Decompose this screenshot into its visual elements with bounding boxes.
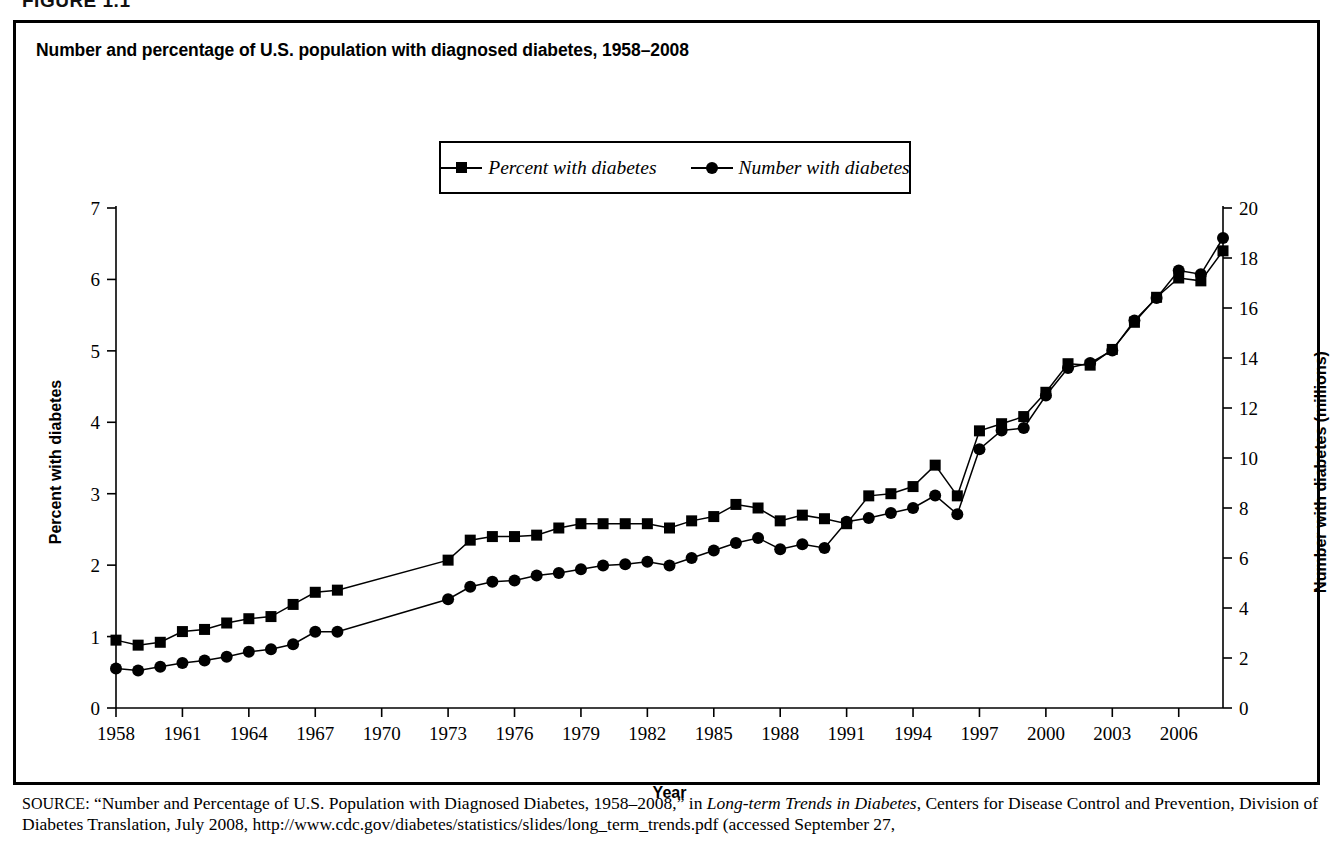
y-axis-left-tick-label: 7	[91, 198, 101, 219]
data-point-square	[598, 518, 609, 529]
data-point-square	[575, 518, 586, 529]
data-point-circle	[331, 626, 343, 638]
x-axis-tick-label: 1988	[761, 723, 799, 744]
y-axis-right-tick-label: 0	[1239, 698, 1249, 719]
data-point-square	[221, 618, 232, 629]
data-point-circle	[1106, 345, 1118, 357]
y-axis-right-tick-label: 8	[1239, 498, 1249, 519]
data-point-circle	[863, 512, 875, 524]
x-axis-tick-label: 1970	[363, 723, 401, 744]
y-axis-right-tick-label: 4	[1239, 598, 1249, 619]
figure-box: Number and percentage of U.S. population…	[13, 20, 1320, 785]
data-point-circle	[641, 556, 653, 568]
data-point-circle	[1062, 362, 1074, 374]
source-text-b: , Centers for Disease Control	[917, 793, 1121, 813]
data-point-circle	[575, 563, 587, 575]
data-point-circle	[907, 502, 919, 514]
y-axis-right-tick-label: 12	[1239, 398, 1258, 419]
x-axis-tick-label: 1994	[894, 723, 933, 744]
y-axis-left-tick-label: 5	[91, 341, 101, 362]
data-point-circle	[464, 581, 476, 593]
data-point-circle	[730, 537, 742, 549]
data-point-square	[465, 535, 476, 546]
data-point-circle	[1018, 422, 1030, 434]
y-axis-left-tick-label: 4	[91, 412, 101, 433]
y-axis-right-tick-label: 20	[1239, 198, 1258, 219]
x-axis-tick-label: 1976	[496, 723, 534, 744]
data-point-circle	[243, 646, 255, 658]
data-point-square	[553, 523, 564, 534]
data-point-square	[908, 481, 919, 492]
y-axis-right-title: Number with diabetes (millions)	[1312, 332, 1330, 612]
y-axis-right-tick-label: 6	[1239, 548, 1249, 569]
data-point-square	[930, 460, 941, 471]
data-point-circle	[796, 538, 808, 550]
x-axis-tick-label: 1985	[695, 723, 733, 744]
data-point-circle	[686, 552, 698, 564]
x-axis-tick-label: 2000	[1027, 723, 1065, 744]
data-point-square	[620, 518, 631, 529]
data-point-circle	[154, 661, 166, 673]
data-point-circle	[199, 655, 211, 667]
data-point-circle	[951, 508, 963, 520]
data-point-circle	[1151, 292, 1163, 304]
source-keyword: SOURCE:	[22, 795, 90, 812]
source-publication: Long-term Trends in Diabetes	[707, 793, 917, 813]
data-point-circle	[885, 507, 897, 519]
data-point-square	[111, 635, 122, 646]
data-point-square	[730, 499, 741, 510]
data-point-circle	[619, 558, 631, 570]
data-point-circle	[442, 593, 454, 605]
data-point-circle	[708, 545, 720, 557]
data-point-circle	[221, 651, 233, 663]
data-point-circle	[132, 665, 144, 677]
y-axis-right-tick-label: 18	[1239, 248, 1258, 269]
data-point-square	[288, 599, 299, 610]
figure-number: FIGURE 1.1	[22, 0, 130, 12]
x-axis-tick-label: 2006	[1160, 723, 1198, 744]
x-axis-tick-label: 1997	[960, 723, 998, 744]
y-axis-right-tick-label: 10	[1239, 448, 1258, 469]
data-point-circle	[509, 575, 521, 587]
data-point-circle	[1173, 265, 1185, 277]
x-axis-tick-label: 1967	[296, 723, 334, 744]
data-point-square	[863, 490, 874, 501]
y-axis-left-tick-label: 6	[91, 269, 101, 290]
data-point-circle	[265, 643, 277, 655]
data-point-circle	[1084, 357, 1096, 369]
y-axis-right-tick-label: 16	[1239, 298, 1258, 319]
data-point-square	[952, 490, 963, 501]
x-axis-tick-label: 1991	[828, 723, 866, 744]
series-line	[116, 251, 1223, 645]
data-point-circle	[531, 570, 543, 582]
source-note: SOURCE: “Number and Percentage of U.S. P…	[22, 793, 1322, 835]
data-point-circle	[1217, 232, 1229, 244]
data-point-circle	[818, 542, 830, 554]
data-point-square	[531, 530, 542, 541]
series-number	[110, 232, 1229, 677]
data-point-circle	[287, 638, 299, 650]
data-point-square	[686, 515, 697, 526]
data-point-square	[753, 503, 764, 514]
data-point-square	[664, 523, 675, 534]
series-percent	[111, 245, 1229, 650]
data-point-circle	[176, 657, 188, 669]
data-point-circle	[1128, 315, 1140, 327]
data-point-circle	[774, 543, 786, 555]
data-point-square	[708, 511, 719, 522]
source-text-a: “Number and Percentage of U.S. Populatio…	[90, 793, 707, 813]
data-point-square	[642, 518, 653, 529]
data-point-circle	[664, 560, 676, 572]
x-axis-tick-label: 1973	[429, 723, 467, 744]
data-point-square	[819, 513, 830, 524]
x-axis-tick-label: 1982	[628, 723, 666, 744]
data-point-square	[177, 626, 188, 637]
data-point-square	[775, 515, 786, 526]
y-axis-left-tick-label: 2	[91, 555, 101, 576]
x-axis-tick-label: 1964	[230, 723, 269, 744]
data-point-square	[797, 510, 808, 521]
x-axis-tick-label: 1979	[562, 723, 600, 744]
y-axis-left-title: Percent with diabetes	[47, 362, 65, 562]
data-point-circle	[597, 560, 609, 572]
y-axis-right-tick-label: 14	[1239, 348, 1259, 369]
